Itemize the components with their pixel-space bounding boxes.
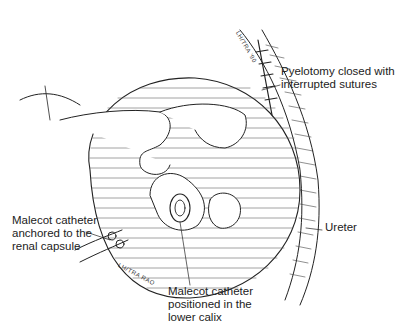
label-pyelotomy: Pyelotomy closed with interrupted suture… xyxy=(281,65,395,91)
label-ureter: Ureter xyxy=(325,221,357,234)
label-malecot-anchored: Malecot catheter anchored to the renal c… xyxy=(12,214,97,253)
kidney-drawing xyxy=(0,0,401,327)
label-malecot-calix: Malecot catheter positioned in the lower… xyxy=(168,285,253,324)
